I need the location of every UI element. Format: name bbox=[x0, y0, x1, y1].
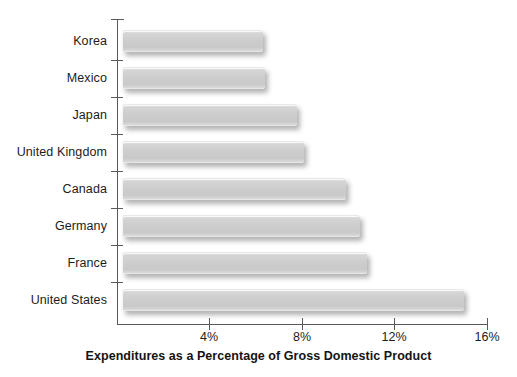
y-axis-label-japan: Japan bbox=[72, 109, 107, 122]
bar-fill bbox=[122, 30, 263, 52]
bar-france bbox=[122, 252, 367, 274]
bar-fill bbox=[122, 215, 360, 237]
x-axis-tick bbox=[394, 318, 395, 330]
y-axis-tick bbox=[111, 171, 123, 172]
y-axis-tick bbox=[111, 208, 123, 209]
y-axis-label-mexico: Mexico bbox=[67, 72, 107, 85]
x-axis-tick-label: 16% bbox=[462, 330, 512, 344]
y-axis-tick bbox=[111, 97, 123, 98]
bar-japan bbox=[122, 104, 297, 126]
x-axis-tick-label: 12% bbox=[369, 330, 419, 344]
bar-germany bbox=[122, 215, 360, 237]
x-axis-tick bbox=[487, 318, 488, 330]
bar-united-kingdom bbox=[122, 141, 304, 163]
bar-united-states bbox=[122, 289, 464, 311]
y-axis-label-canada: Canada bbox=[63, 183, 107, 196]
y-axis-label-united-kingdom: United Kingdom bbox=[17, 146, 107, 159]
bar-canada bbox=[122, 178, 346, 200]
bar-fill bbox=[122, 104, 297, 126]
y-axis-tick bbox=[111, 134, 123, 135]
bar-chart: Korea Mexico Japan United Kingdom Canada… bbox=[0, 0, 517, 377]
x-axis-tick bbox=[209, 318, 210, 330]
y-axis-label-france: France bbox=[67, 257, 107, 270]
x-axis-title: Expenditures as a Percentage of Gross Do… bbox=[0, 349, 517, 363]
bar-fill bbox=[122, 141, 304, 163]
y-axis-top-cap bbox=[111, 19, 124, 20]
y-axis-label-korea: Korea bbox=[73, 35, 107, 48]
y-axis-tick bbox=[111, 282, 123, 283]
x-axis-tick bbox=[302, 318, 303, 330]
bar-mexico bbox=[122, 67, 265, 89]
x-axis-tick-label: 8% bbox=[277, 330, 327, 344]
x-axis-tick-label: 4% bbox=[184, 330, 234, 344]
y-axis-tick bbox=[111, 60, 123, 61]
y-axis-label-united-states: United States bbox=[31, 294, 107, 307]
bar-fill bbox=[122, 252, 367, 274]
y-axis-tick bbox=[111, 245, 123, 246]
bar-fill bbox=[122, 67, 265, 89]
y-axis-label-germany: Germany bbox=[55, 220, 107, 233]
bar-fill bbox=[122, 178, 346, 200]
bar-korea bbox=[122, 30, 263, 52]
bar-fill bbox=[122, 289, 464, 311]
